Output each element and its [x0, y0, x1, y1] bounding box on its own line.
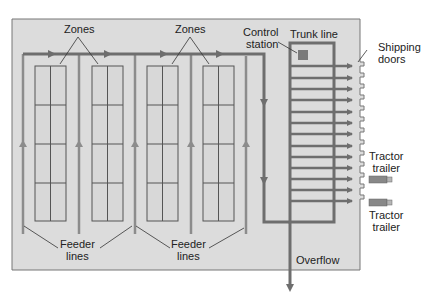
tractor-trailer-2	[369, 199, 392, 206]
tractor-trailer-1-label-line1: Tractor	[369, 150, 403, 162]
shipping-doors-label: Shipping doors	[378, 41, 421, 65]
tractor-trailer-1-label-line2: trailer	[369, 162, 403, 174]
shipping-doors-label-line2: doors	[378, 53, 421, 65]
feeder-lines-label-left: Feeder lines	[60, 238, 95, 262]
overflow-label: Overflow	[296, 254, 339, 266]
zones-label-right: Zones	[175, 23, 206, 35]
control-station	[298, 50, 308, 60]
tractor-trailer-2-label-line1: Tractor	[369, 209, 403, 221]
feeder-lines-label-right: Feeder lines	[171, 238, 206, 262]
zone-rack-2	[92, 66, 123, 221]
control-station-label-line2: station	[243, 38, 278, 50]
zones-label-left: Zones	[64, 23, 95, 35]
feeder-lines-label-left-line1: Feeder	[60, 238, 95, 250]
shipping-doors-label-line1: Shipping	[378, 41, 421, 53]
tractor-trailer-2-label-line2: trailer	[369, 221, 403, 233]
feeder-lines-label-left-line2: lines	[60, 250, 95, 262]
tractor-trailer-1-label: Tractor trailer	[369, 150, 403, 174]
zone-rack-1	[35, 66, 66, 221]
control-station-label: Control station	[243, 26, 278, 50]
tractor-trailer-2-label: Tractor trailer	[369, 209, 403, 233]
feeder-lines-label-right-line2: lines	[171, 250, 206, 262]
zone-rack-3	[147, 66, 178, 221]
feeder-lines-label-right-line1: Feeder	[171, 238, 206, 250]
zone-rack-4	[203, 66, 234, 221]
control-station-label-line1: Control	[243, 26, 278, 38]
tractor-trailer-1	[369, 176, 392, 183]
trunk-line-label: Trunk line	[290, 28, 338, 40]
